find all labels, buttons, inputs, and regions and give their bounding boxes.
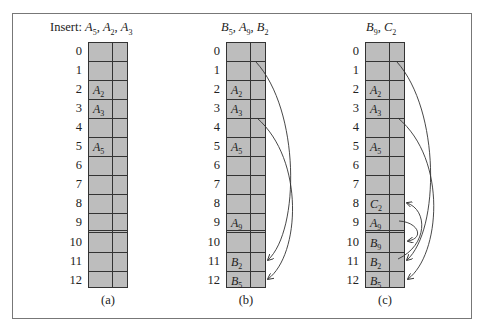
pointer-arrow bbox=[398, 203, 422, 259]
pointer-arrow bbox=[257, 118, 293, 279]
pointer-arrows bbox=[0, 0, 484, 330]
panel-b-pointers bbox=[256, 62, 293, 279]
pointer-arrow bbox=[397, 62, 431, 260]
pointer-arrow bbox=[256, 62, 291, 260]
panel-c-pointers bbox=[397, 62, 434, 279]
pointer-arrow bbox=[399, 221, 418, 241]
